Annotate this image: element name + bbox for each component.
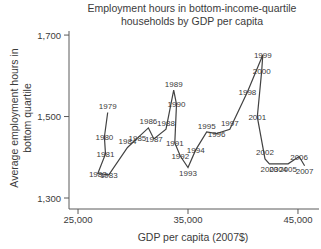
- x-tick-label-2: 45,000: [283, 214, 312, 225]
- data-point-label-1981: 1981: [97, 150, 115, 159]
- data-point-label-2000: 2000: [253, 67, 271, 76]
- data-point-labels: 1979198019811982198319841985198619871988…: [89, 51, 314, 180]
- y-tick-label-0: 1,300: [37, 193, 61, 204]
- data-point-label-2001: 2001: [248, 113, 266, 122]
- chart-title-line-1: Employment hours in bottom-income-quarti…: [88, 2, 297, 14]
- employment-hours-chart-figure: Employment hours in bottom-income-quarti…: [0, 0, 321, 249]
- data-point-label-1991: 1991: [166, 139, 184, 148]
- data-point-label-1983: 1983: [100, 171, 118, 180]
- data-point-label-1979: 1979: [99, 102, 117, 111]
- x-tick-label-1: 35,000: [173, 214, 202, 225]
- data-point-label-1980: 1980: [96, 133, 114, 142]
- data-point-label-1986: 1986: [140, 117, 158, 126]
- data-point-label-2002: 2002: [256, 148, 274, 157]
- axes: 1,3001,5001,70025,00035,00045,000: [37, 30, 319, 225]
- y-tick-label-1: 1,500: [37, 111, 61, 122]
- data-point-label-2006: 2006: [290, 153, 308, 162]
- chart-canvas: Employment hours in bottom-income-quarti…: [0, 0, 321, 249]
- data-point-label-1987: 1987: [145, 135, 163, 144]
- data-point-label-1989: 1989: [165, 80, 183, 89]
- data-point-label-1999: 1999: [254, 51, 272, 60]
- data-point-label-1994: 1994: [187, 146, 205, 155]
- data-point-label-2007: 2007: [296, 167, 314, 176]
- data-point-label-1988: 1988: [157, 119, 175, 128]
- data-point-label-1998: 1998: [239, 88, 257, 97]
- y-axis-label-line-2: bottom quartile: [21, 83, 33, 153]
- y-tick-label-2: 1,700: [37, 30, 61, 41]
- x-axis-label: GDP per capita (2007$): [138, 231, 249, 243]
- x-tick-label-0: 25,000: [63, 214, 92, 225]
- data-point-label-1996: 1996: [208, 130, 226, 139]
- y-axis-label-line-1: Average employment hours in: [8, 48, 20, 187]
- chart-title-line-2: households by GDP per capita: [121, 15, 263, 27]
- data-point-label-1990: 1990: [168, 100, 186, 109]
- data-point-label-1993: 1993: [179, 169, 197, 178]
- data-point-label-1997: 1997: [221, 119, 239, 128]
